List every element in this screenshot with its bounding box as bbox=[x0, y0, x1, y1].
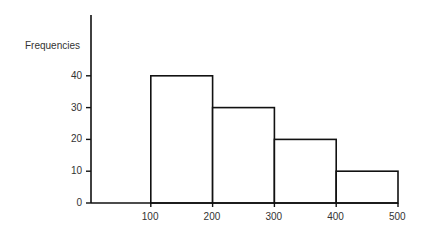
x-tick-label: 500 bbox=[389, 211, 406, 222]
y-tick-label: 20 bbox=[71, 133, 82, 144]
y-tick-label: 30 bbox=[71, 102, 82, 113]
histogram-bar bbox=[151, 76, 213, 203]
y-tick-label: 10 bbox=[71, 165, 82, 176]
x-tick-label: 100 bbox=[142, 211, 159, 222]
x-tick-label: 400 bbox=[327, 211, 344, 222]
x-tick-label: 300 bbox=[265, 211, 282, 222]
histogram-bar bbox=[336, 171, 398, 203]
y-tick-label: 0 bbox=[76, 197, 82, 208]
chart-canvas bbox=[0, 0, 423, 235]
y-axis-label: Frequencies bbox=[25, 40, 80, 51]
histogram-bar bbox=[274, 139, 336, 203]
x-tick-label: 200 bbox=[204, 211, 221, 222]
histogram-bar bbox=[213, 108, 275, 203]
y-tick-label: 40 bbox=[71, 70, 82, 81]
